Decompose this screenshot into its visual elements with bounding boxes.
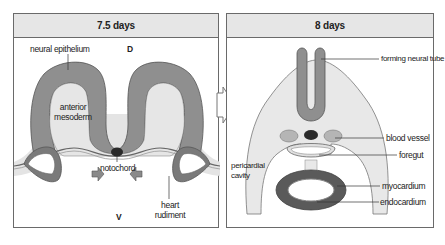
- label-notochord: notochord: [100, 163, 135, 173]
- panel-7-5-days: 7.5 days neural epithelium D anterior: [13, 13, 219, 228]
- panel-8-days: 8 days forming neural tube blood vessel …: [226, 13, 434, 228]
- label-neural-epithelium: neural epithelium: [30, 44, 90, 54]
- label-blood-vessel: blood vessel: [386, 133, 430, 143]
- label-anterior-mesoderm: anterior mesoderm: [54, 102, 92, 122]
- label-ventral: V: [116, 212, 121, 222]
- label-forming-neural-tube: forming neural tube: [381, 54, 444, 64]
- blood-vessel-right: [324, 130, 342, 142]
- label-myocardium: myocardium: [382, 181, 425, 191]
- endocardium-shape: [288, 179, 334, 201]
- label-heart-rudiment: heart rudiment: [152, 200, 188, 220]
- label-foregut: foregut: [399, 150, 423, 160]
- notochord-shape: [111, 148, 123, 157]
- blood-vessel-left: [280, 130, 298, 142]
- label-dorsal: D: [127, 44, 133, 54]
- notochord-shape: [304, 130, 318, 140]
- label-pericardial-cavity: pericardial cavity: [231, 161, 265, 181]
- label-endocardium: endocardium: [380, 197, 426, 207]
